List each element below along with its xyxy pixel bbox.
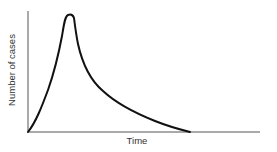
case-curve [28,15,190,132]
y-axis-label: Number of cases [6,34,17,106]
epidemic-curve-chart [0,0,277,152]
x-axis-label: Time [127,135,148,146]
